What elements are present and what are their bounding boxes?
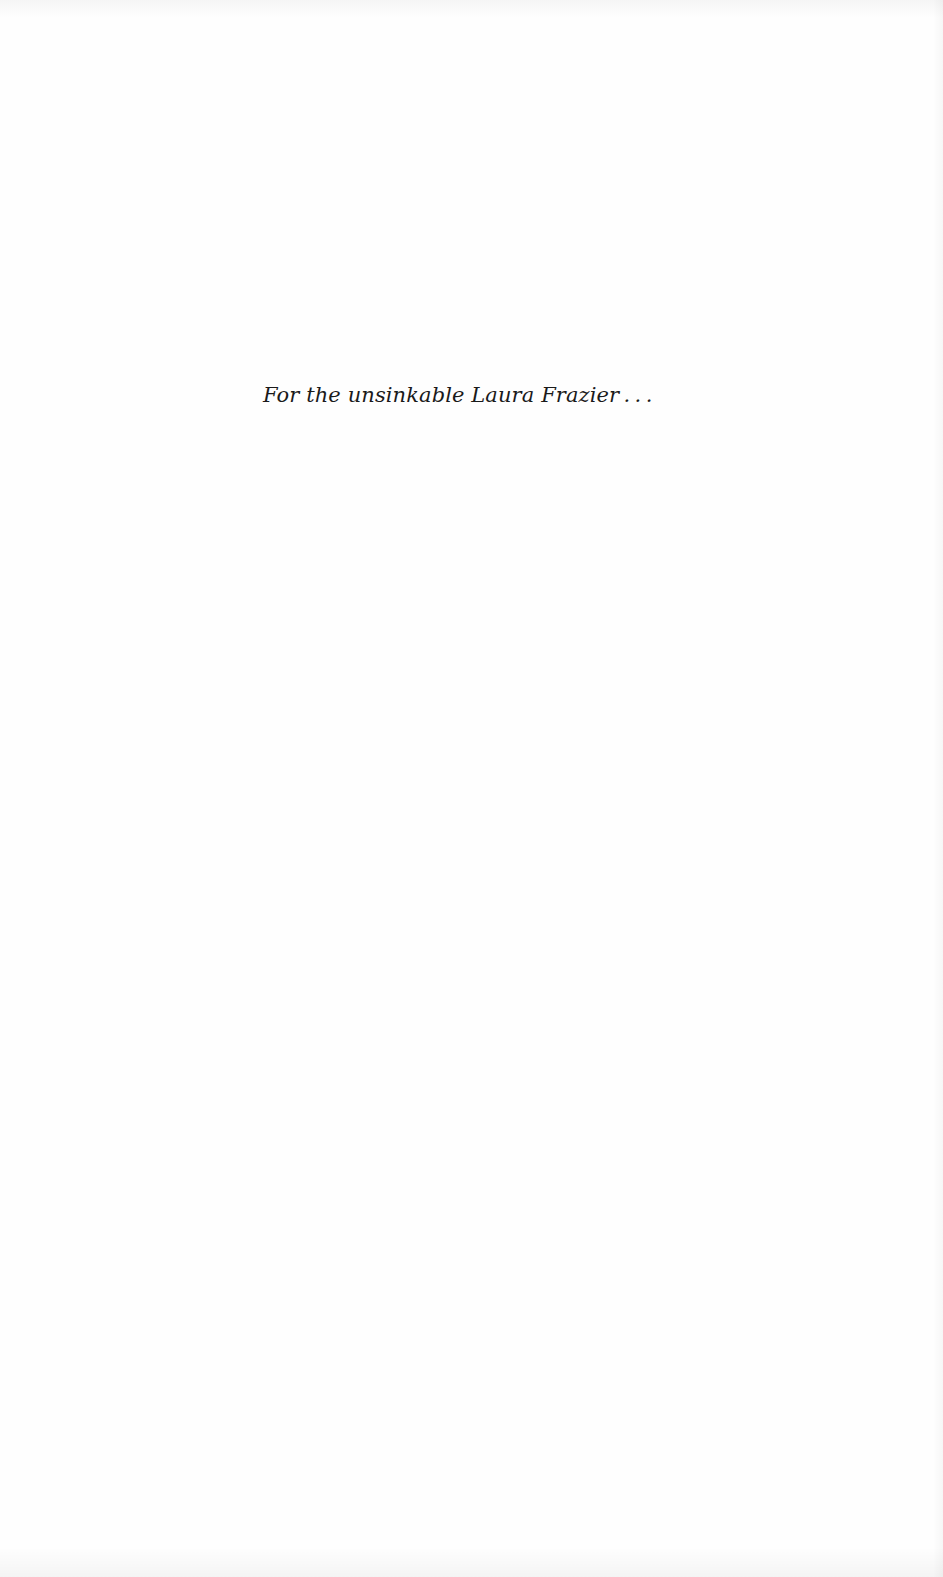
dedication-text: For the unsinkable Laura Frazier . . .: [263, 377, 652, 413]
book-page: For the unsinkable Laura Frazier . . .: [0, 0, 943, 1577]
